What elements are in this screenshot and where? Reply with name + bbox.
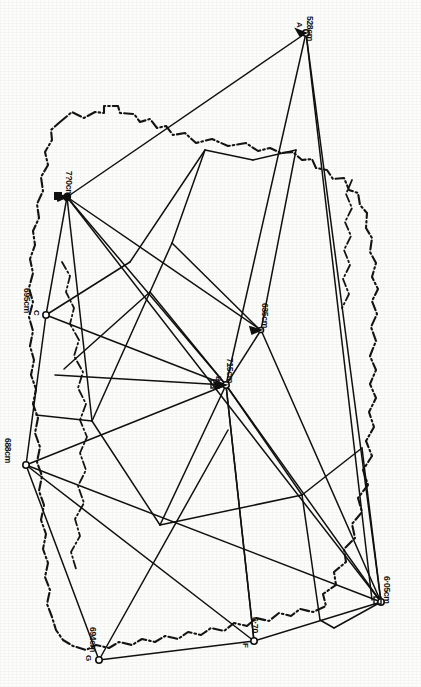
- survey-line-D-F: [26, 465, 254, 641]
- survey-line-A-B: [67, 33, 306, 197]
- parcel-edge-21: [320, 620, 334, 628]
- measurement-label-G: 694cm: [89, 627, 98, 652]
- station-marker-G: [96, 657, 102, 663]
- measurement-label-B: 7?0cm: [65, 171, 74, 196]
- parcel-edge-16: [36, 415, 92, 421]
- parcel-edge-5: [172, 150, 205, 243]
- station-marker-D: [23, 462, 29, 468]
- station-label-C: C: [32, 310, 40, 315]
- parcel-edge-8: [64, 292, 150, 369]
- station-marker-C: [43, 312, 49, 318]
- map-canvas: [0, 0, 421, 687]
- survey-line-A-J2: [306, 33, 372, 600]
- parcel-edge-14: [226, 385, 302, 495]
- measurement-label-E: 715cm: [226, 358, 235, 383]
- measurement-label-C: 695cm: [23, 288, 32, 313]
- survey-line-B-down: [67, 197, 92, 421]
- survey-line-G-F: [99, 641, 254, 660]
- survey-line-network: [26, 33, 381, 660]
- flag-B-box: [54, 192, 62, 200]
- survey-line-A-E: [226, 33, 306, 385]
- parcel-edge-20: [99, 430, 228, 660]
- parcel-edge-12: [302, 448, 362, 495]
- parcel-edge-9: [92, 421, 160, 525]
- parcel-edge-3: [205, 150, 253, 160]
- station-label-G: G: [84, 655, 92, 661]
- station-label-F: F: [241, 643, 249, 648]
- parcel-edge-7: [150, 292, 226, 385]
- station-marker-F: [251, 638, 257, 644]
- survey-line-D-E: [26, 385, 226, 465]
- survey-map-figure: 528cm A 7?0cm 695cm C 688cm 715cm E 635c…: [0, 0, 421, 687]
- survey-line-B-C: [46, 197, 67, 315]
- measurement-label-H: 635cm: [261, 303, 270, 328]
- station-label-E: E: [214, 376, 222, 381]
- station-direction-flags: [54, 29, 381, 604]
- measurement-label-D: 688cm: [4, 438, 13, 463]
- measurement-label-F: 6·70: [251, 617, 260, 633]
- measurement-label-J: 6·05cm: [383, 576, 392, 604]
- boundary-inner-features: [62, 180, 352, 569]
- measurement-label-A: 528cm: [306, 16, 315, 41]
- parcel-edge-2: [130, 150, 205, 262]
- parcel-edge-11: [160, 495, 302, 525]
- parcel-edge-17: [92, 292, 150, 421]
- parcel-edge-19: [226, 385, 254, 641]
- parcel-edge-10: [160, 385, 226, 525]
- station-label-A: A: [295, 22, 303, 27]
- parcel-edge-1: [46, 262, 130, 315]
- survey-line-C-D: [26, 315, 46, 465]
- survey-line-E-C: [46, 315, 226, 385]
